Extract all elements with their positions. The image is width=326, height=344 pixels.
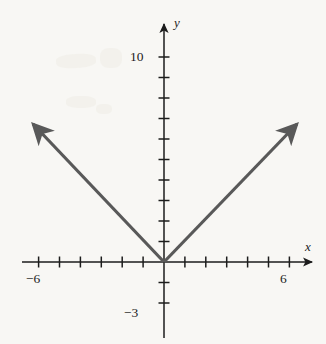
coordinate-plot (0, 0, 326, 344)
y-axis-label: y (174, 16, 180, 29)
graph-figure: y x 10 −6 6 −3 (0, 0, 326, 344)
curve-left-branch (33, 124, 164, 262)
x-axis-label: x (305, 240, 311, 253)
y-tick-label-neg3: −3 (124, 306, 138, 320)
x-tick-label-6: 6 (280, 272, 287, 286)
x-tick-label-neg6: −6 (26, 272, 40, 286)
y-tick-label-10: 10 (130, 50, 144, 64)
curve-right-branch (164, 124, 297, 262)
